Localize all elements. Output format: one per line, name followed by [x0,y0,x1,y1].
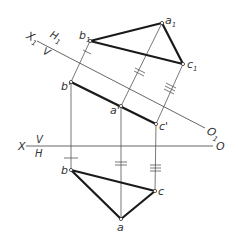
label-axis-h: H [35,148,43,159]
label-axis-v1: V [41,45,53,58]
triangle-abc [71,170,155,219]
label-a-prime: a' [110,104,120,117]
equal-distance-ticks [64,50,176,171]
svg-text:H1: H1 [47,29,64,47]
label-axis-o: O [216,140,225,153]
label-b1: b [79,29,86,42]
svg-text:c1: c1 [187,58,198,73]
triangle-a1b1c1 [90,23,183,64]
label-axis-v: V [36,134,44,145]
svg-text:b1: b1 [79,29,90,44]
label-b-prime: b' [61,80,71,93]
projector-c [155,124,156,191]
label-c: c [158,185,164,198]
label-axis-x: X [17,140,26,153]
label-c-prime: c' [159,120,168,133]
label-b: b [61,164,68,177]
label-a: a [117,221,124,234]
projector-b1 [71,41,90,82]
svg-text:X1: X1 [22,29,40,48]
edge-view-b-c-prime [71,82,156,124]
svg-text:a1: a1 [165,14,176,29]
projector-a1 [121,23,162,106]
descriptive-geometry-diagram: a1 b1 c1 b' a' c' b c a X V H O X1 H1 V … [0,0,238,244]
